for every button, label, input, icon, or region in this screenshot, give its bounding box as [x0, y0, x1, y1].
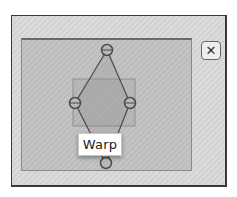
warp-overlay [0, 0, 237, 197]
warp-handle-right[interactable] [125, 98, 136, 109]
warp-handle-bottom[interactable] [101, 158, 112, 169]
warp-tooltip: Warp [78, 133, 122, 156]
warp-tooltip-label: Warp [83, 137, 117, 152]
warp-handle-top[interactable] [102, 45, 113, 56]
warp-handle-left[interactable] [70, 98, 81, 109]
